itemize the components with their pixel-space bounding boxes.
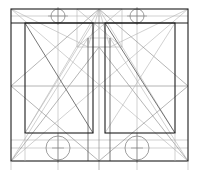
construction-drawing-svg <box>0 0 199 174</box>
diagonal-construction-group <box>11 9 188 161</box>
corner-tl-to-centerbox <box>11 9 88 47</box>
corner-tr-to-centerbox <box>110 9 188 47</box>
circles-group <box>46 7 149 163</box>
line-drawing-canvas <box>0 0 199 174</box>
base-fan-left <box>11 47 99 161</box>
guide-lines-group <box>11 9 188 170</box>
base-fan-right-secondary <box>110 38 188 161</box>
base-fan-left-secondary <box>11 38 88 161</box>
